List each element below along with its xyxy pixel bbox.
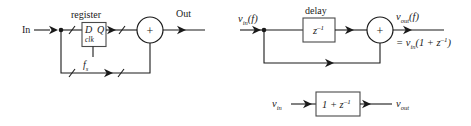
clock-frequency-label: fs [83,59,89,72]
register-pin-d: D [84,24,93,35]
panel-hardware-implementation: In register D Q clk + [22,8,205,77]
panel-z-domain-feedforward: vin(f) delay z–1 + vout(f) [238,5,452,67]
output-equation: = vin(1 + z–1) [396,36,452,50]
adder-plus-symbol-z: + [377,24,384,38]
register-pin-clk: clk [85,35,94,44]
figure-root: In register D Q clk + [0,0,471,126]
input-label-in: In [22,24,30,35]
input-label-vin-f: vin(f) [238,13,258,26]
tf-input-label: vin [272,98,282,111]
output-label-vout-f: vout(f) [396,11,419,24]
output-label-out: Out [176,8,191,19]
arrowhead-in [49,26,58,34]
diagram-canvas: In register D Q clk + [0,0,471,126]
tf-output-label: vout [396,98,409,111]
register-pin-q: Q [97,24,105,35]
register-caption: register [71,9,102,20]
adder-plus-symbol: + [147,24,154,38]
panel-transfer-function-block: vin 1 + z–1 vout [272,92,409,116]
delay-caption: delay [305,5,327,16]
